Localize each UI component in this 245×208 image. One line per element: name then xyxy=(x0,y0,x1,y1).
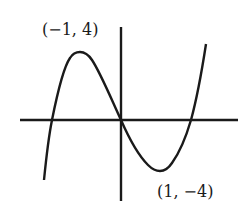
cubic-curve xyxy=(44,44,206,180)
max-point-label: (−1, 4) xyxy=(42,20,98,39)
min-point-label: (1, −4) xyxy=(157,182,213,201)
cubic-graph: (−1, 4) (1, −4) xyxy=(0,0,245,208)
